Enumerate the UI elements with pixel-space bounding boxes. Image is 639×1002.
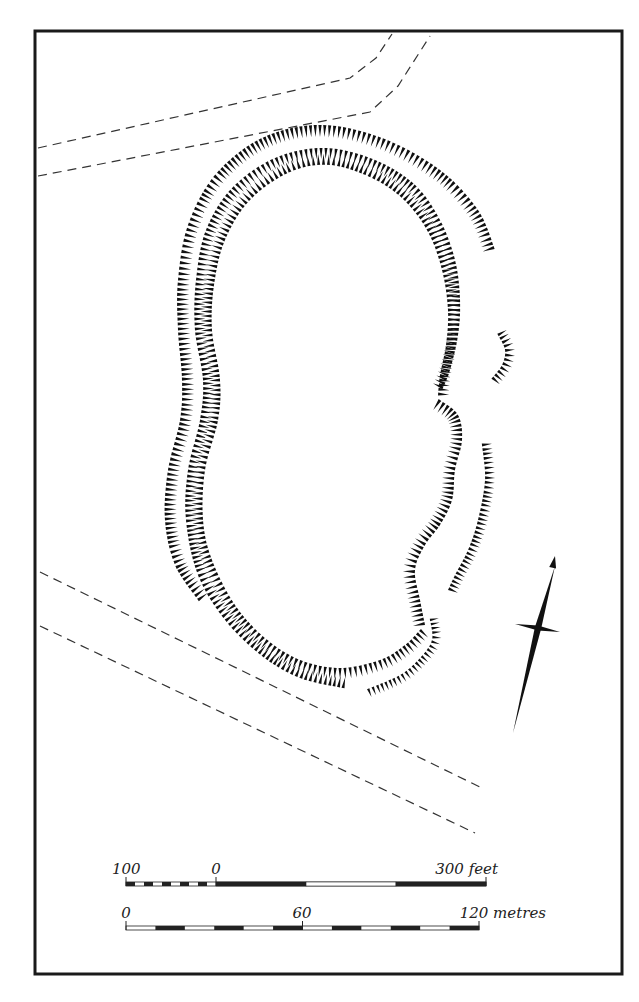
outer-rampart-south-east bbox=[367, 618, 441, 697]
track-south-upper bbox=[40, 572, 484, 789]
scale-bars: 1000300 feet060120 metres bbox=[112, 860, 546, 930]
scale-label: 100 bbox=[112, 860, 141, 878]
scale-label: 0 bbox=[211, 860, 221, 878]
hachured-ramparts bbox=[165, 125, 515, 697]
scale-label: 120 metres bbox=[460, 904, 547, 922]
track-lines bbox=[38, 34, 484, 833]
scale-label: 60 bbox=[292, 904, 312, 922]
site-plan: 1000300 feet060120 metres bbox=[0, 0, 639, 1002]
scale-metres: 060120 metres bbox=[121, 904, 546, 930]
scale-label: 300 feet bbox=[435, 860, 499, 878]
outer-rampart-east-lower bbox=[448, 444, 495, 593]
track-north-lower bbox=[38, 36, 430, 176]
inner-rampart-east bbox=[403, 399, 462, 626]
map-frame bbox=[35, 31, 622, 974]
outer-rampart-east-upper bbox=[491, 330, 515, 384]
middle-rampart bbox=[185, 148, 460, 688]
scale-feet: 1000300 feet bbox=[112, 860, 499, 886]
scale-label: 0 bbox=[121, 904, 131, 922]
track-south-lower bbox=[40, 626, 475, 833]
north-arrow-icon bbox=[513, 556, 560, 733]
